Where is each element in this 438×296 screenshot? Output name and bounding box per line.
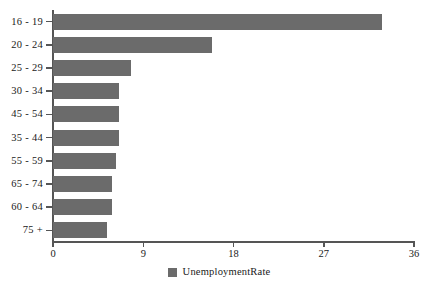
y-tick-mark xyxy=(46,230,53,232)
y-tick-mark xyxy=(46,160,53,162)
bar-fill xyxy=(53,130,119,146)
x-tick-mark xyxy=(413,241,415,247)
bar-fill xyxy=(53,14,382,30)
bar-fill xyxy=(53,83,119,99)
chart-legend: UnemploymentRate xyxy=(0,266,438,278)
y-tick-label: 25 - 29 xyxy=(11,62,43,73)
x-tick-label: 18 xyxy=(219,248,249,260)
bar-65-74 xyxy=(53,176,112,192)
bar-fill xyxy=(53,106,119,122)
bar-30-34 xyxy=(53,83,119,99)
y-tick-label: 35 - 44 xyxy=(11,132,43,143)
x-tick-label: 36 xyxy=(399,248,429,260)
x-tick-label: 0 xyxy=(38,248,68,260)
bar-fill xyxy=(53,60,131,76)
x-tick-mark xyxy=(52,241,54,247)
x-tick-label: 9 xyxy=(128,248,158,260)
y-tick-label: 75 + xyxy=(23,224,43,235)
bar-fill xyxy=(53,199,112,215)
bar-20-24 xyxy=(53,37,212,53)
y-tick-label: 30 - 34 xyxy=(11,85,43,96)
y-tick-mark xyxy=(46,137,53,139)
legend-label-unemploymentrate: UnemploymentRate xyxy=(183,266,271,278)
bar-fill xyxy=(53,176,112,192)
legend-swatch-unemploymentrate xyxy=(168,268,177,277)
y-tick-label: 55 - 59 xyxy=(11,155,43,166)
x-tick-mark xyxy=(233,241,235,247)
y-tick-label: 20 - 24 xyxy=(11,39,43,50)
y-tick-mark xyxy=(46,67,53,69)
y-tick-label: 60 - 64 xyxy=(11,201,43,212)
bar-fill xyxy=(53,37,212,53)
bar-60-64 xyxy=(53,199,112,215)
y-tick-mark xyxy=(46,21,53,23)
bar-55-59 xyxy=(53,153,116,169)
y-tick-label: 45 - 54 xyxy=(11,108,43,119)
bar-16-19 xyxy=(53,14,382,30)
bar-fill xyxy=(53,222,107,238)
bar-fill xyxy=(53,153,116,169)
y-tick-mark xyxy=(46,206,53,208)
x-tick-mark xyxy=(323,241,325,247)
y-tick-mark xyxy=(46,44,53,46)
bar-35-44 xyxy=(53,130,119,146)
y-tick-mark xyxy=(46,114,53,116)
bar-25-29 xyxy=(53,60,131,76)
bar-45-54 xyxy=(53,106,119,122)
x-tick-mark xyxy=(143,241,145,247)
y-tick-label: 16 - 19 xyxy=(11,16,43,27)
y-tick-label: 65 - 74 xyxy=(11,178,43,189)
x-tick-label: 27 xyxy=(309,248,339,260)
bar-75plus xyxy=(53,222,107,238)
y-tick-mark xyxy=(46,183,53,185)
y-tick-mark xyxy=(46,90,53,92)
bar-chart: 16 - 1920 - 2425 - 2930 - 3445 - 5435 - … xyxy=(0,0,438,296)
